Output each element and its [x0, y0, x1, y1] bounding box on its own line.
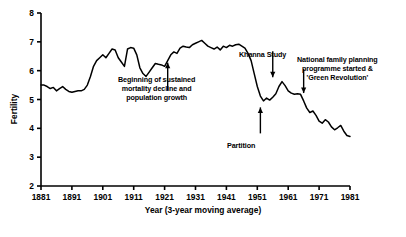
annotation-national-family-planning: National family planning programme start… [297, 55, 378, 83]
x-tick-label: 1921 [155, 192, 174, 202]
x-tick-label: 1981 [341, 192, 360, 202]
x-tick-label: 1951 [248, 192, 267, 202]
y-tick-label: 5 [29, 95, 34, 105]
y-tick-label: 7 [29, 37, 34, 47]
x-axis-tick-labels: 1881189119011911192119311941195119611971… [32, 192, 360, 202]
x-tick-label: 1961 [279, 192, 298, 202]
annotation-arrowhead-national-family-planning [301, 88, 306, 94]
annotation-mortality-line1: Beginning of sustained [118, 75, 195, 84]
fertility-chart: 2345678 18811891190119111921193119411951… [0, 0, 406, 237]
annotation-khanna-study: Khanna Study [239, 50, 286, 59]
annotation-mortality-decline: Beginning of sustained mortality decline… [118, 75, 195, 103]
chart-plot-area: 2345678 18811891190119111921193119411951… [0, 0, 406, 237]
annotation-arrowhead-partition [258, 107, 263, 113]
annotation-khanna-line1: Khanna Study [239, 50, 286, 59]
x-tick-label: 1931 [186, 192, 205, 202]
x-tick-label: 1941 [217, 192, 236, 202]
y-axis-tick-labels: 2345678 [29, 8, 34, 191]
annotation-nfp-line2: programme started & [297, 64, 378, 73]
annotation-partition: Partition [227, 141, 255, 150]
annotation-partition-line1: Partition [227, 141, 255, 150]
x-tick-label: 1901 [93, 192, 112, 202]
annotation-nfp-line1: National family planning [297, 55, 378, 64]
x-tick-label: 1971 [310, 192, 329, 202]
annotation-nfp-line3: 'Green Revolution' [297, 73, 378, 82]
x-tick-label: 1881 [32, 192, 51, 202]
y-tick-label: 8 [29, 8, 34, 18]
y-tick-label: 4 [29, 123, 34, 133]
annotation-arrowhead-khanna [270, 72, 275, 78]
x-tick-label: 1911 [125, 192, 144, 202]
x-axis-label: Year (3-year moving average) [0, 205, 406, 215]
y-tick-label: 3 [29, 152, 34, 162]
annotation-mortality-line2: mortality decline and [118, 84, 195, 93]
y-axis-label: Fertility [9, 74, 19, 144]
y-tick-label: 6 [29, 66, 34, 76]
x-tick-label: 1891 [63, 192, 82, 202]
y-tick-label: 2 [29, 181, 34, 191]
annotation-mortality-line3: population growth [118, 93, 195, 102]
